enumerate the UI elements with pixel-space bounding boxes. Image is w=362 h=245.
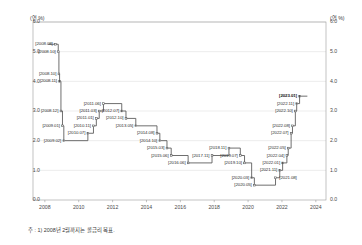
rate-label-2019-07: [2019.07] (220, 153, 237, 157)
base-rate-chart-figure: (연 %) (연 %) 6.05.04.03.02.01.00.0 6.05.0… (0, 0, 362, 245)
rate-label-2008-08: [2008.08] (35, 42, 52, 46)
rate-label-2011-01: [2011.01] (77, 116, 94, 120)
rate-label-2022-04: [2022.04] (267, 153, 284, 157)
rate-label-2022-11: [2022.11] (277, 101, 294, 105)
rate-label-2016-06: [2016.06] (168, 161, 185, 165)
rate-label-2021-08: [2021.08] (279, 176, 296, 180)
rate-label-2020-05: [2020.05] (234, 183, 251, 187)
rate-label-2022-08: [2022.08] (272, 124, 289, 128)
rate-label-2018-11: [2018.11] (209, 146, 226, 150)
chart-footnote: 주 : 1) 2008년 2월까지는 콜금리 목표. (28, 226, 115, 234)
rate-label-2019-10: [2019.10] (225, 161, 242, 165)
rate-label-2013-05: [2013.05] (116, 124, 133, 128)
rate-label-2022-07: [2022.07] (271, 131, 288, 135)
rate-label-2010-07: [2010.07] (68, 131, 85, 135)
rate-label-2008-10: [2008.10] (38, 49, 55, 53)
rate-label-2011-06: [2011.06] (84, 101, 101, 105)
rate-label-2015-03: [2015.03] (147, 146, 164, 150)
rate-label-2014-10: [2014.10] (140, 138, 157, 142)
rate-label-2011-03: [2011.03] (80, 109, 97, 113)
rate-label-2009-01: [2009.01] (42, 124, 59, 128)
rate-label-2023-01: [2023.01] (279, 94, 297, 98)
rate-label-2015-06: [2015.06] (151, 153, 168, 157)
rate-label-2022-01: [2022.01] (263, 161, 280, 165)
rate-label-2021-11: [2021.11] (260, 168, 277, 172)
rate-label-2020-03: [2020.03] (232, 176, 249, 180)
rate-label-2008-11: [2008.11] (40, 79, 57, 83)
rate-label-2010-11: [2010.11] (74, 124, 91, 128)
rate-label-2008-12: [2008.12] (41, 109, 58, 113)
rate-label-2009-02: [2009.02] (44, 138, 61, 142)
rate-label-2012-07: [2012.07] (102, 109, 119, 113)
rate-label-2017-11: [2017.11] (192, 153, 209, 157)
data-point-labels: [2008.08][2008.10][2008.10][2008.11][200… (0, 0, 362, 245)
rate-label-2022-10: [2022.10] (275, 109, 292, 113)
rate-label-2012-10: [2012.10] (106, 116, 123, 120)
rate-label-2022-05: [2022.05] (268, 146, 285, 150)
rate-label-2014-08: [2014.08] (137, 131, 154, 135)
rate-label-2008-10: [2008.10] (39, 72, 56, 76)
